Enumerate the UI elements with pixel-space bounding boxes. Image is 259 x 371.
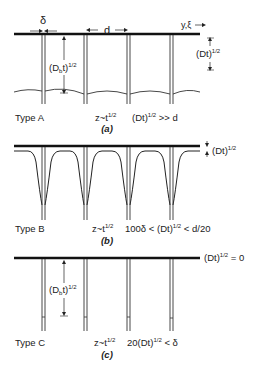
growth-law: z~t1/2 [95, 112, 117, 123]
bulk-depth-label: (Dt)1/2 [196, 48, 221, 59]
type-label: Type B [15, 223, 45, 234]
growth-law: z~t1/2 [92, 223, 114, 234]
regime-condition: (Dt)1/2 >> d [132, 112, 178, 123]
caption: (a) [101, 123, 113, 134]
regime-condition: 20(Dt)1/2 < δ [127, 337, 178, 348]
panel-a: δ d y,ξ (Dbt)1/2 (Dt)1/2 Type A z~t1/2 (… [14, 14, 221, 134]
grain-boundaries-b [42, 147, 173, 220]
type-label: Type C [15, 337, 45, 348]
caption: (c) [101, 349, 113, 360]
panel-c: (Dbt)1/2 (Dt)1/2 = 0 Type C z~t1/2 20(Dt… [14, 252, 244, 360]
type-label: Type A [15, 112, 45, 123]
axis-label: y,ξ [181, 20, 191, 30]
regime-condition: 100δ < (Dt)1/2 < d/20 [125, 223, 210, 234]
delta-label: δ [40, 14, 46, 26]
spacing-label: d [104, 24, 110, 36]
gb-front-ticks [42, 317, 173, 318]
gb-depth-label: (Dbt)1/2 [49, 62, 77, 74]
diffusion-regimes-diagram: δ d y,ξ (Dbt)1/2 (Dt)1/2 Type A z~t1/2 (… [0, 0, 259, 371]
bulk-depth-label: (Dt)1/2 [212, 145, 237, 156]
gb-depth-label: (Dbt)1/2 [49, 284, 77, 296]
panel-b: (Dt)1/2 Type B z~t1/2 100δ < (Dt)1/2 < d… [14, 141, 237, 246]
growth-law: z~t1/2 [94, 337, 116, 348]
bulk-zero-label: (Dt)1/2 = 0 [204, 252, 244, 263]
caption: (b) [101, 235, 113, 246]
